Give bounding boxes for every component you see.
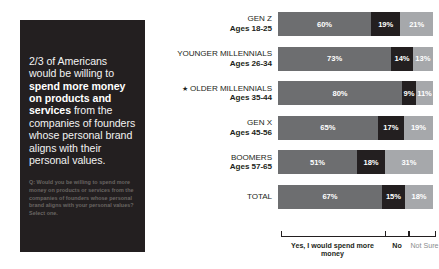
axis-tick-end bbox=[435, 231, 436, 237]
row-group-name: TOTAL bbox=[150, 192, 272, 202]
segment-yes: 67% bbox=[278, 185, 382, 209]
axis-line bbox=[281, 236, 436, 237]
row-label-gen-x: GEN X Ages 45-56 bbox=[150, 118, 278, 137]
segment-yes: 80% bbox=[278, 81, 402, 105]
survey-question-text: Q: Would you be willing to spend more mo… bbox=[29, 179, 136, 217]
segment-no: 15% bbox=[382, 185, 405, 209]
bar-gen-z: 60% 19% 21% bbox=[278, 12, 433, 36]
segment-not-sure: 31% bbox=[385, 150, 433, 174]
chart-legend: Yes, I would spend more money No Not Sur… bbox=[281, 242, 439, 268]
row-age-range: Ages 57-65 bbox=[150, 162, 272, 172]
axis-tick-no-notsure bbox=[408, 231, 410, 237]
segment-not-sure: 18% bbox=[405, 185, 433, 209]
segment-no: 14% bbox=[391, 47, 413, 71]
row-age-range: Ages 45-56 bbox=[150, 128, 272, 138]
row-label-total: TOTAL bbox=[150, 192, 278, 202]
legend-item-no: No bbox=[384, 242, 410, 250]
legend-item-yes: Yes, I would spend more money bbox=[281, 242, 384, 259]
row-label-boomers: BOOMERS Ages 57-65 bbox=[150, 153, 278, 172]
row-group-name: ★OLDER MILLENNIALS bbox=[150, 84, 272, 94]
callout-panel: 2/3 of Americans would be willing to spe… bbox=[20, 20, 145, 252]
bar-gen-x: 65% 17% 19% bbox=[278, 116, 433, 140]
bar-younger-millennials: 73% 14% 13% bbox=[278, 47, 433, 71]
bar-older-millennials: 80% 9% 11% bbox=[278, 81, 433, 105]
row-age-range: Ages 35-44 bbox=[150, 93, 272, 103]
segment-not-sure: 19% bbox=[404, 116, 433, 140]
row-label-gen-z: GEN Z Ages 18-25 bbox=[150, 14, 278, 33]
row-label-younger-millennials: YOUNGER MILLENNIALS Ages 26-34 bbox=[150, 49, 278, 68]
segment-not-sure: 21% bbox=[400, 12, 433, 36]
table-row: GEN Z Ages 18-25 60% 19% 21% bbox=[150, 12, 436, 36]
segment-not-sure: 11% bbox=[416, 81, 433, 105]
segment-yes: 65% bbox=[278, 116, 378, 140]
row-group-name: BOOMERS bbox=[150, 153, 272, 163]
row-age-range: Ages 18-25 bbox=[150, 24, 272, 34]
segment-yes: 51% bbox=[278, 150, 357, 174]
axis-tick-start bbox=[281, 231, 282, 237]
legend-axis bbox=[281, 231, 436, 239]
row-group-name: GEN X bbox=[150, 118, 272, 128]
segment-not-sure: 13% bbox=[413, 47, 433, 71]
callout-headline-part1: 2/3 of Americans would be willing to bbox=[29, 55, 114, 79]
table-row: BOOMERS Ages 57-65 51% 18% 31% bbox=[150, 150, 436, 174]
table-row: TOTAL 67% 15% 18% bbox=[150, 185, 436, 209]
legend-item-not-sure: Not Sure bbox=[410, 242, 439, 250]
row-group-name-text: OLDER MILLENNIALS bbox=[190, 84, 272, 93]
segment-yes: 73% bbox=[278, 47, 391, 71]
callout-headline: 2/3 of Americans would be willing to spe… bbox=[29, 55, 136, 167]
table-row: YOUNGER MILLENNIALS Ages 26-34 73% 14% 1… bbox=[150, 47, 436, 71]
bar-total: 67% 15% 18% bbox=[278, 185, 433, 209]
bar-boomers: 51% 18% 31% bbox=[278, 150, 433, 174]
chart-rows: GEN Z Ages 18-25 60% 19% 21% YOUNGER MIL… bbox=[150, 12, 436, 220]
segment-no: 19% bbox=[371, 12, 400, 36]
axis-tick-yes-no bbox=[385, 231, 387, 237]
stacked-bar-chart: GEN Z Ages 18-25 60% 19% 21% YOUNGER MIL… bbox=[150, 12, 436, 269]
star-icon: ★ bbox=[182, 85, 188, 92]
row-label-older-millennials: ★OLDER MILLENNIALS Ages 35-44 bbox=[150, 84, 278, 103]
segment-no: 17% bbox=[378, 116, 404, 140]
row-age-range: Ages 26-34 bbox=[150, 59, 272, 69]
segment-yes: 60% bbox=[278, 12, 371, 36]
segment-no: 18% bbox=[357, 150, 385, 174]
table-row: GEN X Ages 45-56 65% 17% 19% bbox=[150, 116, 436, 140]
segment-no: 9% bbox=[402, 81, 416, 105]
row-group-name: YOUNGER MILLENNIALS bbox=[150, 49, 272, 59]
row-group-name: GEN Z bbox=[150, 14, 272, 24]
table-row: ★OLDER MILLENNIALS Ages 35-44 80% 9% 11% bbox=[150, 81, 436, 105]
